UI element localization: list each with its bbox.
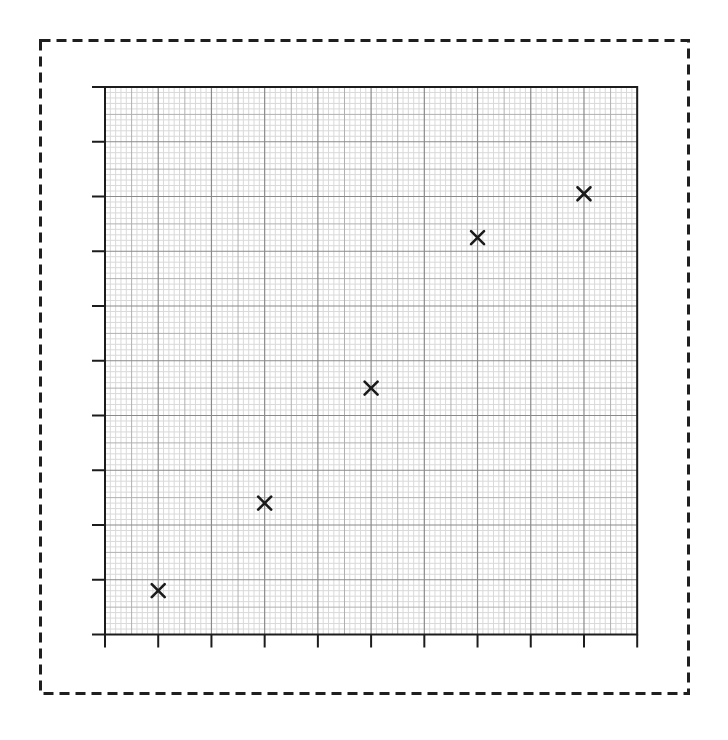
worksheet-page [0, 0, 728, 740]
scatter-plot-figure [0, 0, 728, 740]
